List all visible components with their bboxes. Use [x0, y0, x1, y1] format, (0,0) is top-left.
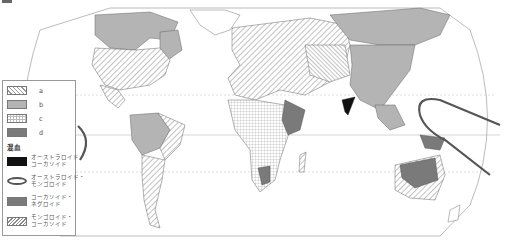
- swatch-curve-outline: [7, 177, 27, 185]
- legend-item-d: d: [7, 128, 43, 137]
- legend-item-c: c: [7, 114, 43, 123]
- swatch-medium-gray: [7, 197, 27, 206]
- legend-item-austro-caucaso: オーストラロイド・ コーカソイド: [7, 154, 85, 168]
- swatch-b: [7, 100, 27, 109]
- swatch-dense-hatch: [7, 217, 27, 226]
- map-legend: a b c d 混血 オーストラロイド・ コーカソイド オーストラロイド・ モン…: [2, 80, 76, 236]
- legend-mixed-header: 混血: [7, 142, 21, 152]
- legend-item-a: a: [7, 86, 43, 95]
- swatch-a: [7, 86, 27, 95]
- legend-item-b: b: [7, 100, 43, 109]
- swatch-d: [7, 128, 27, 137]
- legend-item-austro-mongo: オーストラロイド・ モンゴロイド: [7, 174, 85, 188]
- legend-item-caucaso-negro: コーカソイド・ ネグロイド: [7, 194, 73, 208]
- swatch-black: [7, 157, 27, 166]
- swatch-c: [7, 114, 27, 123]
- legend-item-mongo-caucaso: モンゴロイド・ コーカソイド: [7, 214, 73, 228]
